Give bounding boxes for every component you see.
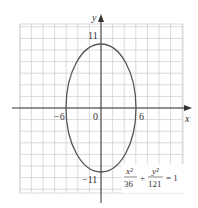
tick-label-y-neg11: −11 — [82, 174, 97, 185]
eq-term1-den: 36 — [124, 179, 134, 189]
eq-term1-num: x² — [125, 166, 133, 176]
y-axis-arrow-icon — [98, 14, 104, 22]
eq-plus: + — [140, 173, 145, 183]
tick-label-x-6: 6 — [139, 111, 144, 122]
eq-equals: = 1 — [166, 173, 178, 183]
tick-label-origin: 0 — [93, 111, 98, 122]
eq-term2-num: y² — [151, 166, 159, 176]
eq-term2-den: 121 — [148, 179, 162, 189]
tick-label-x-neg6: −6 — [54, 111, 65, 122]
x-axis-arrow-icon — [184, 105, 192, 111]
y-axis-label: y — [91, 12, 97, 23]
tick-label-y-11: 11 — [88, 30, 98, 41]
x-axis-label: x — [184, 113, 190, 124]
ellipse-graph: y x −6 0 6 11 −11 x² 36 + y² 121 = 1 — [0, 0, 198, 208]
